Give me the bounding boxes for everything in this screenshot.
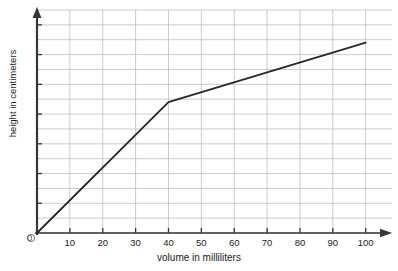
x-tick-label: 90 [328,238,339,248]
x-tick-label: 50 [196,238,207,248]
grid-lines [37,10,392,233]
chart-svg [0,0,398,271]
x-tick-label: 100 [358,238,374,248]
x-tick-label: 20 [97,238,108,248]
x-axis-tick-labels: 102030405060708090100 [0,238,398,252]
x-tick-label: 60 [229,238,240,248]
x-axis-title: volume in milliliters [0,252,398,263]
chart-screenshot: height in centimeters 2468101214 0 10203… [0,0,398,271]
axis-lines [33,7,393,237]
x-tick-label: 40 [163,238,174,248]
x-tick-label: 80 [295,238,306,248]
x-tick-label: 30 [130,238,141,248]
x-tick-label: 10 [65,238,76,248]
chart-canvas [0,0,398,271]
x-tick-label: 70 [262,238,273,248]
